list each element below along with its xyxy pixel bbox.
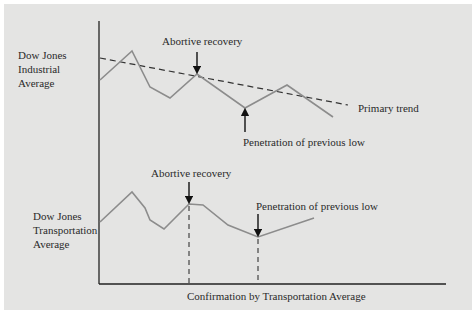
penetration-label-lower: Penetration of previous low xyxy=(256,199,378,213)
label-line: Average xyxy=(18,76,67,90)
label-line: Average xyxy=(33,237,97,251)
label-line: Transportation xyxy=(33,223,97,237)
abortive-recovery-label-lower: Abortive recovery xyxy=(151,166,231,180)
label-line: Dow Jones xyxy=(18,48,67,62)
industrial-average-label: Dow Jones Industrial Average xyxy=(18,48,67,90)
primary-trend-line xyxy=(100,58,348,105)
dow-theory-diagram xyxy=(0,0,476,321)
penetration-label-upper: Penetration of previous low xyxy=(243,135,365,149)
transportation-average-label: Dow Jones Transportation Average xyxy=(33,209,97,251)
label-line: Industrial xyxy=(18,62,67,76)
x-axis-label: Confirmation by Transportation Average xyxy=(187,289,366,303)
primary-trend-label: Primary trend xyxy=(358,101,419,115)
abortive-recovery-label-upper: Abortive recovery xyxy=(162,34,242,48)
industrial-average-line xyxy=(100,51,333,117)
label-line: Dow Jones xyxy=(33,209,97,223)
